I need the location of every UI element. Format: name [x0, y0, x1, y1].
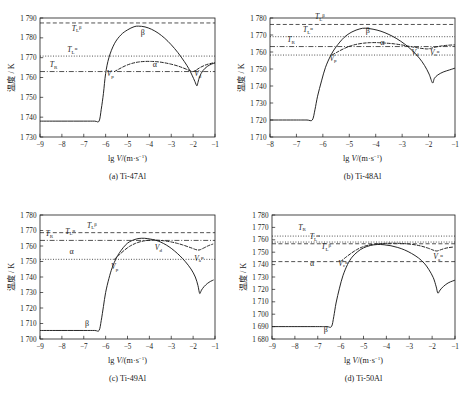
plot-area — [40, 233, 215, 332]
x-tick-label: −3 — [398, 141, 406, 149]
x-tick-label: −4 — [372, 141, 380, 149]
y-tick-label: 1 710 — [250, 134, 267, 142]
x-tick-label: −7 — [80, 141, 88, 149]
x-tick-label: −5 — [124, 141, 132, 149]
chart-c: 1 7001 7101 7201 7301 7401 7501 7601 770… — [0, 199, 229, 398]
y-tick-label: 1 690 — [252, 323, 269, 331]
series-beta — [40, 238, 213, 331]
x-tick-label: −4 — [146, 141, 154, 149]
chart-b: 1 7101 7201 7301 7401 7501 7601 7701 780… — [229, 0, 459, 199]
figure-grid: 1 7301 7401 7501 7601 7701 7801 790−9−8−… — [0, 0, 459, 398]
x-tick-label: −5 — [360, 343, 368, 351]
x-tick-label: −1 — [211, 141, 219, 149]
x-tick-label: −6 — [337, 343, 345, 351]
phase-label: α — [310, 259, 315, 268]
phase-label: β — [366, 26, 370, 35]
chart-d: 1 6801 6901 7001 7101 7201 7301 7401 750… — [229, 199, 459, 398]
temperature-label: TLβ — [87, 221, 97, 231]
x-tick-label: −7 — [80, 343, 88, 351]
y-tick-label: 1 780 — [250, 15, 267, 23]
plot-frame — [40, 18, 215, 137]
x-tick-label: −8 — [58, 141, 66, 149]
x-tick-label: −8 — [58, 343, 66, 351]
velocity-label: Vp — [111, 262, 119, 272]
plot-area — [272, 236, 455, 327]
velocity-label: Vd — [194, 69, 202, 79]
y-tick-label: 1 700 — [20, 336, 37, 344]
x-axis-title: lg V/(m·s−1) — [108, 154, 147, 163]
x-tick-label: −5 — [124, 343, 132, 351]
y-tick-label: 1 730 — [252, 274, 269, 282]
x-tick-label: −8 — [291, 343, 299, 351]
y-tick-label: 1 760 — [252, 236, 269, 244]
panel-caption: (d) Ti-50Al — [345, 374, 383, 383]
y-axis-title: 温度 / K — [238, 263, 248, 291]
y-axis-title: 温度 / K — [6, 263, 16, 291]
velocity-label: Vaα — [430, 48, 440, 58]
phase-label: β — [85, 319, 89, 328]
x-tick-label: −2 — [189, 343, 197, 351]
y-tick-label: 1 710 — [20, 320, 37, 328]
velocity-label: Vp — [107, 69, 115, 79]
velocity-label: Vd — [155, 243, 163, 253]
panel-a: 1 7301 7401 7501 7601 7701 7801 790−9−8−… — [0, 0, 229, 199]
temperature-label: TLβ — [315, 12, 325, 22]
phase-label: β — [141, 28, 145, 37]
panel-caption: (c) Ti-49Al — [109, 374, 147, 383]
velocity-label: Vaα — [433, 252, 443, 262]
y-tick-label: 1 730 — [20, 289, 37, 297]
y-tick-label: 1 760 — [20, 243, 37, 251]
x-tick-label: −2 — [189, 141, 197, 149]
y-tick-label: 1 750 — [20, 258, 37, 266]
x-tick-label: −1 — [451, 343, 459, 351]
x-axis-title: lg V/(m·s−1) — [343, 154, 382, 163]
y-tick-label: 1 770 — [20, 54, 37, 62]
temperature-label: TR — [50, 60, 58, 70]
x-tick-label: −1 — [211, 343, 219, 351]
temperature-label: TLα — [65, 227, 75, 237]
temperature-label: TLα — [303, 25, 313, 35]
y-tick-label: 1 760 — [20, 74, 37, 82]
y-tick-label: 1 740 — [252, 261, 269, 269]
temperature-label: TLα — [310, 232, 320, 242]
temperature-label: TR — [298, 223, 306, 233]
y-tick-label: 1 770 — [252, 224, 269, 232]
phase-label: α — [70, 247, 75, 256]
series-alpha — [114, 61, 215, 71]
y-tick-label: 1 750 — [250, 66, 267, 74]
x-tick-label: −3 — [167, 343, 175, 351]
y-tick-label: 1 790 — [20, 15, 37, 23]
panel-caption: (b) Ti-48Al — [344, 172, 382, 181]
x-tick-label: −2 — [425, 141, 433, 149]
x-tick-label: −8 — [266, 141, 274, 149]
y-tick-label: 1 720 — [20, 305, 37, 313]
y-tick-label: 1 760 — [250, 49, 267, 57]
y-axis-title: 温度 / K — [6, 63, 16, 91]
x-tick-label: −4 — [146, 343, 154, 351]
velocity-label: Vaα — [194, 254, 204, 264]
x-axis-title: lg V/(m·s−1) — [344, 356, 383, 365]
chart-a: 1 7301 7401 7501 7601 7701 7801 790−9−8−… — [0, 0, 229, 199]
panel-d: 1 6801 6901 7001 7101 7201 7301 7401 750… — [229, 199, 459, 398]
x-tick-label: −1 — [451, 141, 459, 149]
panel-caption: (a) Ti-47Al — [109, 172, 147, 181]
plot-frame — [272, 215, 455, 339]
temperature-label: TR — [45, 229, 53, 239]
y-tick-label: 1 700 — [252, 311, 269, 319]
y-tick-label: 1 720 — [250, 117, 267, 125]
velocity-label: Vd — [411, 48, 419, 58]
y-tick-label: 1 770 — [250, 32, 267, 40]
phase-label: β — [324, 325, 328, 334]
y-tick-label: 1 740 — [20, 274, 37, 282]
y-tick-label: 1 770 — [20, 227, 37, 235]
y-tick-label: 1 750 — [20, 94, 37, 102]
x-tick-label: −7 — [293, 141, 301, 149]
x-tick-label: −6 — [102, 141, 110, 149]
x-tick-label: −6 — [102, 343, 110, 351]
plot-area — [40, 23, 215, 122]
y-tick-label: 1 680 — [252, 336, 269, 344]
x-tick-label: −9 — [36, 343, 44, 351]
y-tick-label: 1 730 — [20, 134, 37, 142]
y-tick-label: 1 780 — [20, 34, 37, 42]
y-tick-label: 1 720 — [252, 286, 269, 294]
